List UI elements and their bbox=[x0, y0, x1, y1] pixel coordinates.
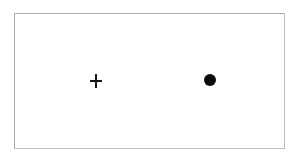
fixation-cross-label: + bbox=[15, 14, 16, 15]
plus-cross-icon bbox=[90, 74, 102, 88]
filled-circle-icon bbox=[204, 74, 216, 86]
cross-vertical-bar bbox=[95, 74, 97, 88]
target-dot-label: ● bbox=[15, 14, 16, 15]
stimulus-display: + ● bbox=[0, 0, 299, 162]
stimulus-frame: + ● bbox=[14, 13, 285, 149]
